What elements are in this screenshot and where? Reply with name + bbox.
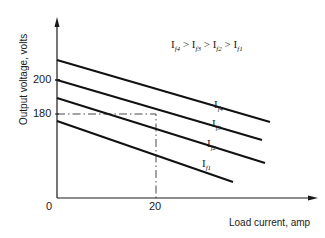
series-line-if4	[57, 60, 270, 122]
series-label-if1: If1	[202, 157, 211, 172]
legend-item-if4: If4	[171, 38, 180, 50]
legend-separator: >	[225, 38, 231, 50]
legend-inequality: If4 > If3 > If2 > If1	[171, 38, 243, 53]
legend-item-if2: If2	[213, 38, 222, 50]
y-tick-label-180: 180	[33, 107, 51, 119]
origin-label: 0	[46, 200, 52, 212]
y-axis-arrow-icon	[55, 17, 60, 27]
legend-separator: >	[204, 38, 210, 50]
x-axis-arrow-icon	[308, 196, 318, 201]
legend-item-if3: If3	[192, 38, 201, 50]
series-line-if2	[57, 98, 265, 163]
series-label-if3: If3	[212, 117, 221, 132]
series-label-if4: If4	[214, 98, 223, 113]
series-label-if2: If2	[207, 137, 216, 152]
x-tick-label-20: 20	[149, 200, 161, 212]
y-tick-label-200: 200	[33, 73, 51, 85]
legend-item-if1: If1	[234, 38, 243, 50]
y-axis-label: Output voltage, volts	[18, 34, 29, 125]
x-axis-label: Load current, amp	[229, 217, 310, 228]
legend-separator: >	[183, 38, 189, 50]
